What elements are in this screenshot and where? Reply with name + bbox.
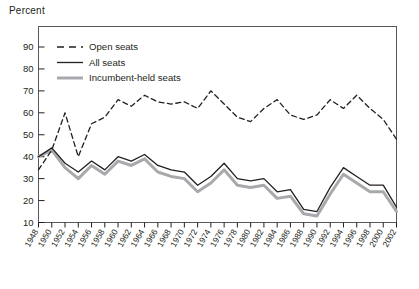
y-tick-label: 50 <box>23 129 34 140</box>
x-axis-ticks: 1948195019521954195619581960196219641966… <box>22 223 398 249</box>
x-tick-label: 2002 <box>380 227 398 248</box>
y-tick-label: 40 <box>23 151 34 162</box>
y-tick-label: 20 <box>23 195 34 206</box>
y-tick-label: 90 <box>23 41 34 52</box>
y-tick-label: 70 <box>23 85 34 96</box>
chart-container: Percent 102030405060708090 1948195019521… <box>0 0 419 289</box>
series-layer <box>39 91 397 216</box>
chart-legend: Open seatsAll seatsIncumbent-held seats <box>57 41 181 83</box>
legend-label: All seats <box>89 57 125 68</box>
series-line <box>39 148 397 212</box>
y-tick-label: 60 <box>23 107 34 118</box>
y-axis-ticks: 102030405060708090 <box>23 41 45 228</box>
series-line <box>39 91 397 170</box>
legend-label: Incumbent-held seats <box>89 72 181 83</box>
y-tick-label: 30 <box>23 173 34 184</box>
y-tick-label: 80 <box>23 63 34 74</box>
y-tick-label: 10 <box>23 217 34 228</box>
series-line <box>39 150 397 216</box>
legend-label: Open seats <box>89 41 138 52</box>
line-chart: 102030405060708090 194819501952195419561… <box>0 0 419 289</box>
